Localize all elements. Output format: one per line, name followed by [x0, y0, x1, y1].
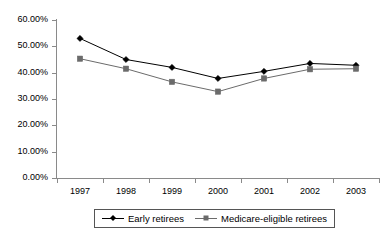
data-point-marker-diamond: [215, 75, 221, 81]
legend-label-medicare-eligible-retirees: Medicare-eligible retirees: [221, 214, 327, 224]
data-point-marker-diamond: [261, 68, 267, 74]
data-point-marker-square: [307, 67, 312, 72]
chart-legend: Early retirees Medicare-eligible retiree…: [94, 209, 335, 228]
data-point-marker-square: [353, 66, 358, 71]
data-point-marker-square: [169, 79, 174, 84]
data-point-marker-square: [77, 56, 82, 61]
legend-label-early-retirees: Early retirees: [128, 214, 184, 224]
series-layer: [0, 0, 389, 240]
series-early-retirees: [77, 35, 359, 81]
chart-container: 0.00%10.00%20.00%30.00%40.00%50.00%60.00…: [0, 0, 389, 240]
data-point-marker-square: [261, 76, 266, 81]
legend-entry-medicare-eligible-retirees: Medicare-eligible retirees: [195, 214, 327, 224]
legend-marker-square-icon: [195, 214, 217, 223]
data-point-marker-diamond: [123, 56, 129, 62]
series-line: [80, 38, 356, 78]
data-point-marker-diamond: [307, 60, 313, 66]
data-point-marker-square: [123, 66, 128, 71]
data-point-marker-diamond: [77, 35, 83, 41]
data-point-marker-diamond: [169, 64, 175, 70]
data-point-marker-square: [215, 89, 220, 94]
legend-entry-early-retirees: Early retirees: [102, 214, 184, 224]
legend-marker-diamond-icon: [102, 214, 124, 223]
